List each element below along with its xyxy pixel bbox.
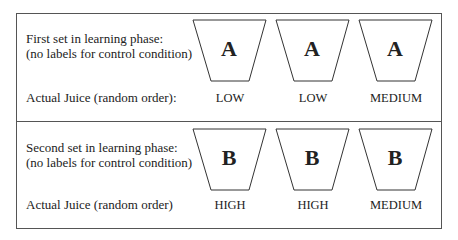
second-juice-label: Actual Juice (random order) [26, 197, 173, 212]
cup-letter: A [358, 36, 432, 62]
cup-letter: B [358, 145, 432, 171]
cup-b-1: B [192, 128, 268, 192]
first-juice-label: Actual Juice (random order): [26, 90, 177, 105]
cup-a-3: A [358, 19, 434, 83]
second-set-label: Second set in learning phase: (no labels… [26, 140, 192, 170]
second-set-label-line2: (no labels for control condition) [26, 155, 192, 170]
juice-level: LOW [192, 91, 268, 106]
cup-letter: A [192, 36, 266, 62]
cup-b-2: B [275, 128, 351, 192]
cup-letter: B [275, 145, 349, 171]
cup-letter: B [192, 145, 266, 171]
first-set-label-line1: First set in learning phase: [26, 31, 192, 46]
juice-level: HIGH [192, 198, 268, 213]
juice-level: LOW [275, 91, 351, 106]
second-set-label-line1: Second set in learning phase: [26, 140, 192, 155]
first-set-label-line2: (no labels for control condition) [26, 46, 192, 61]
first-set-label: First set in learning phase: (no labels … [26, 31, 192, 61]
juice-level: MEDIUM [358, 91, 434, 106]
cup-a-1: A [192, 19, 268, 83]
cup-b-3: B [358, 128, 434, 192]
cup-a-2: A [275, 19, 351, 83]
juice-level: MEDIUM [358, 198, 434, 213]
cup-letter: A [275, 36, 349, 62]
section-divider [16, 121, 442, 122]
juice-level: HIGH [275, 198, 351, 213]
